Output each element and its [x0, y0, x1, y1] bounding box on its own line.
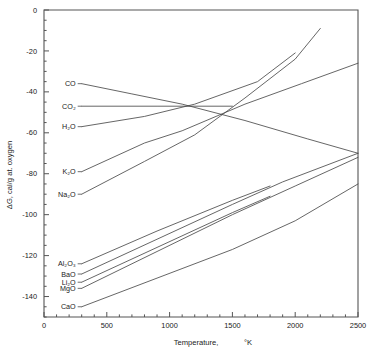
y-tick-label: -80	[26, 169, 37, 178]
y-tick-label: -20	[26, 47, 37, 56]
y-axis-title: ΔG, cal/g at. oxygen	[5, 141, 14, 209]
series-label-h2o: H₂O	[62, 122, 76, 131]
x-tick-label: 500	[101, 321, 113, 330]
y-tick-label: -120	[22, 251, 37, 260]
series-label-cao: CaO	[61, 302, 76, 311]
y-tick-label: -100	[22, 210, 37, 219]
ellingham-diagram-svg: 050010001500200025000-20-40-60-80-100-12…	[0, 0, 380, 359]
x-tick-label: 1000	[161, 321, 177, 330]
chart-figure: 050010001500200025000-20-40-60-80-100-12…	[0, 0, 380, 359]
y-tick-label: -60	[26, 128, 37, 137]
series-line-na2o	[82, 28, 321, 194]
series-line-co	[82, 84, 358, 154]
x-axis-title: Temperature,	[174, 338, 219, 347]
y-tick-label: 0	[33, 6, 37, 15]
series-label-k2o: K₂O	[62, 167, 76, 176]
series-label-mgo: MgO	[60, 284, 76, 293]
x-tick-label: 0	[42, 321, 46, 330]
x-tick-label: 1500	[224, 321, 240, 330]
series-line-bao	[82, 153, 358, 274]
series-line-k2o	[82, 63, 358, 171]
plot-frame	[44, 10, 358, 317]
x-axis-unit: °K	[244, 338, 252, 347]
series-label-al2o3: Al₂O₃	[58, 259, 76, 268]
series-line-al2o3	[82, 186, 270, 264]
series-label-co2: CO₂	[62, 102, 76, 111]
x-tick-label: 2000	[287, 321, 303, 330]
y-tick-label: -140	[22, 292, 37, 301]
series-label-na2o: Na₂O	[58, 190, 76, 199]
y-tick-label: -40	[26, 87, 37, 96]
series-line-mgo	[82, 157, 358, 288]
x-tick-label: 2500	[350, 321, 366, 330]
series-line-li2o	[82, 196, 270, 282]
series-label-co: CO	[65, 79, 76, 88]
